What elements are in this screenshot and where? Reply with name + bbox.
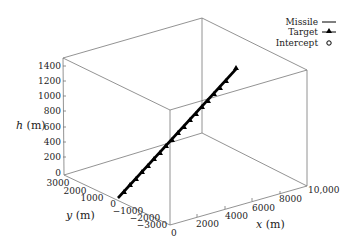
- triangle-marker-icon: [326, 28, 332, 33]
- legend: Missile Target Intercept: [276, 17, 336, 48]
- z-tick-label: 0: [55, 168, 61, 178]
- x-axis-title: x (m): [256, 218, 285, 231]
- legend-target-label: Target: [288, 27, 318, 37]
- z-tick-label: 800: [44, 106, 61, 116]
- y-tick-label: 1000: [81, 193, 104, 203]
- top-face: [63, 18, 307, 110]
- x-tick-label: 10,000: [308, 185, 340, 195]
- z-axis-title: h (m): [16, 119, 46, 132]
- x-tick-label: 0: [171, 228, 177, 238]
- z-axis-edge: [63, 58, 64, 175]
- z-tick-label: 1200: [38, 76, 61, 86]
- legend-intercept-label: Intercept: [276, 38, 319, 48]
- z-tick-label: 1400: [38, 61, 61, 71]
- y-tick-label: −3000: [137, 220, 168, 230]
- y-axis-title: y (m): [65, 209, 95, 222]
- legend-missile-label: Missile: [286, 17, 318, 27]
- x-tick-label: 8000: [279, 194, 302, 204]
- x-tick-label: 4000: [225, 211, 248, 221]
- y-axis-tick-labels: 3000 2000 1000 0 −1000 −2000 −3000: [47, 178, 168, 230]
- x-tick-label: 6000: [252, 203, 275, 213]
- chart-3d: 1400 1200 1000 800 600 400 200 0 h (m) 3…: [0, 0, 354, 246]
- x-tick-label: 2000: [196, 219, 219, 229]
- z-tick-label: 600: [44, 122, 61, 132]
- circle-marker-icon: [327, 41, 331, 45]
- z-tick-label: 1000: [38, 91, 61, 101]
- z-tick-label: 200: [44, 152, 61, 162]
- target-trajectory: [118, 65, 239, 198]
- z-tick-label: 400: [44, 137, 61, 147]
- floor-back-edges: [64, 133, 307, 186]
